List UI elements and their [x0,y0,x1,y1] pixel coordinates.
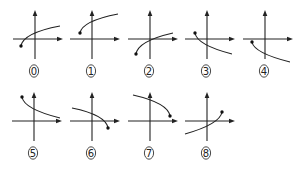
endpoint-dot [78,31,81,34]
curve [185,112,222,134]
x-axis-arrow-icon [229,37,235,42]
endpoint-dot [106,126,109,129]
figure-label: 4 [261,66,267,77]
y-axis-arrow-icon [148,10,153,16]
y-axis-arrow-icon [90,92,95,98]
figure-label: 3 [203,66,209,77]
x-axis-arrow-icon [114,119,120,124]
curve [133,95,170,116]
curve [195,33,232,54]
x-axis-arrow-icon [172,37,178,42]
y-axis-arrow-icon [148,92,153,98]
y-axis-arrow-icon [90,10,95,16]
graph-figure-0: 0 [13,10,63,77]
curve [22,97,60,118]
graph-figure-1: 1 [70,10,120,77]
x-axis-arrow-icon [229,119,235,124]
diagram-canvas: 012345678 [0,0,295,170]
figure-label: 8 [203,148,209,159]
x-axis-arrow-icon [56,119,62,124]
graph-figure-4: 4 [243,10,293,77]
endpoint-dot [193,31,196,34]
x-axis-arrow-icon [287,37,293,42]
endpoint-dot [220,110,223,113]
figure-label: 1 [88,66,94,77]
curve [72,108,108,128]
graph-figure-3: 3 [185,10,235,77]
endpoint-dot [20,95,23,98]
y-axis-arrow-icon [263,10,268,16]
figure-label: 0 [31,66,37,77]
endpoint-dot [19,44,22,47]
graph-figure-7: 7 [128,92,178,159]
graph-figure-5: 5 [12,92,62,159]
endpoint-dot [168,114,171,117]
y-axis-arrow-icon [33,10,38,16]
graph-figure-8: 8 [185,92,235,159]
y-axis-arrow-icon [205,10,210,16]
curve [136,33,173,54]
endpoint-dot [250,40,253,43]
curve [21,26,60,46]
curve [80,14,118,33]
figure-label: 5 [30,148,36,159]
y-axis-arrow-icon [32,92,37,98]
x-axis-arrow-icon [114,37,120,42]
figure-label: 7 [146,148,152,159]
graph-figure-6: 6 [70,92,120,159]
y-axis-arrow-icon [205,92,210,98]
graph-figure-2: 2 [128,10,178,77]
curve [252,42,290,62]
x-axis-arrow-icon [172,119,178,124]
figure-label: 6 [88,148,94,159]
endpoint-dot [134,52,137,55]
x-axis-arrow-icon [57,37,63,42]
figure-label: 2 [146,66,152,77]
